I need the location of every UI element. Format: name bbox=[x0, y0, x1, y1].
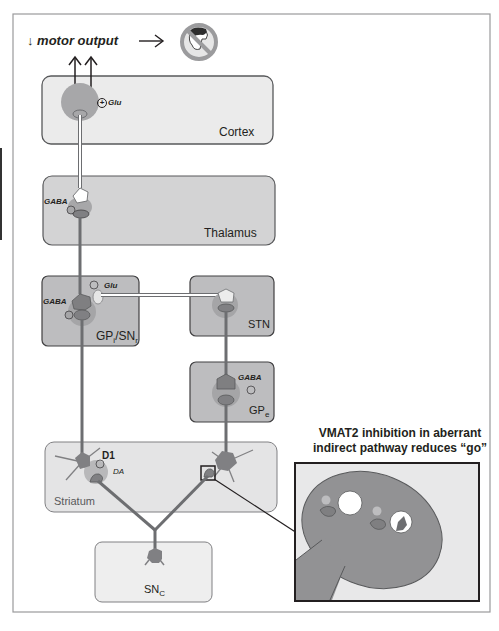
cortex-glu-label: +Glu bbox=[97, 98, 121, 108]
vmat2-protein bbox=[322, 496, 331, 505]
gpi-glu-label: Glu bbox=[104, 281, 117, 290]
vmat2-callout-title: VMAT2 inhibition in aberrant indirect pa… bbox=[300, 426, 499, 456]
gpi-terminal bbox=[74, 310, 90, 320]
gpe-gaba-label: GABA bbox=[238, 373, 262, 382]
vmat2-zoom-panel bbox=[284, 451, 479, 609]
gpi-gaba-label: GABA bbox=[43, 297, 67, 306]
striatum-label: Striatum bbox=[54, 495, 95, 507]
snc-label: SNC bbox=[144, 583, 165, 598]
callout-line-1: VMAT2 inhibition in aberrant bbox=[300, 426, 499, 441]
gpe-terminal bbox=[218, 395, 234, 405]
da-label: DA bbox=[113, 467, 124, 476]
basal-ganglia-diagram bbox=[0, 0, 499, 631]
cortex-plus-sign: + bbox=[97, 98, 107, 108]
thalamus-gaba-label: GABA bbox=[44, 197, 68, 206]
stn-terminal bbox=[218, 304, 234, 312]
vmat2-protein bbox=[373, 507, 382, 516]
gpi-snr-label: GPi/SNr bbox=[96, 329, 138, 345]
glu-text: Glu bbox=[108, 98, 121, 107]
gpe-label: GPe bbox=[249, 404, 269, 419]
snr-main: /SN bbox=[115, 329, 135, 343]
callout-line-2: indirect pathway reduces “go” bbox=[300, 441, 499, 456]
thalamus-terminal bbox=[73, 210, 89, 218]
gpi-minus-sign bbox=[65, 311, 73, 319]
snc-main: SN bbox=[144, 583, 159, 595]
vesicle-empty bbox=[338, 491, 362, 515]
stn-label: STN bbox=[248, 318, 270, 330]
gpi-main: GP bbox=[96, 329, 113, 343]
cortex-label: Cortex bbox=[219, 125, 254, 139]
gpe-sub: e bbox=[265, 410, 269, 419]
snr-sub: r bbox=[135, 336, 138, 345]
d1-label: D1 bbox=[102, 450, 115, 461]
motor-output-label: ↓ motor output bbox=[27, 33, 118, 48]
thalamus-label: Thalamus bbox=[204, 226, 257, 240]
no-movement-icon bbox=[182, 25, 216, 59]
snc-sub: C bbox=[159, 589, 165, 598]
gpe-main: GP bbox=[249, 404, 265, 416]
